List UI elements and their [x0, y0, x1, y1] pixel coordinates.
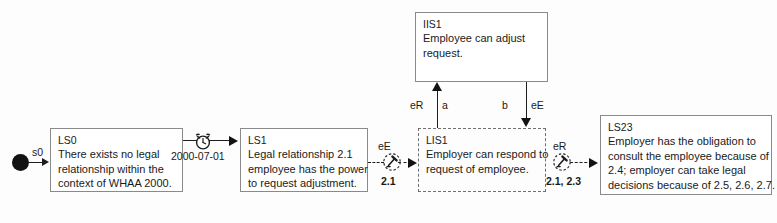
edge-label-clock-date: 2000-07-01: [171, 150, 225, 162]
state-text-line: 2.4; employer can take legal: [608, 163, 765, 178]
state-text-line: to request adjustment.: [248, 176, 361, 191]
gavel-icon: [552, 151, 572, 173]
start-state-node: [12, 154, 29, 171]
state-text-line: Employer has the obligation to: [608, 134, 765, 149]
edge-start-to-ls0-arrowhead: [42, 158, 49, 166]
edge-label-down-right: eE: [531, 99, 544, 111]
start-state-label: s0: [32, 146, 43, 158]
edge-label-up-right: a: [442, 99, 448, 111]
state-text-ls23: Employer has the obligation to consult t…: [608, 134, 765, 192]
edge-label-down-left: b: [502, 99, 508, 111]
edge-iis1-to-lis1-line: [526, 82, 527, 120]
state-text-ls1: Legal relationship 2.1 employee has the …: [248, 147, 361, 191]
state-text-ls0: There exists no legal relationship withi…: [58, 147, 176, 191]
state-box-ls23[interactable]: LS23 Employer has the obligation to cons…: [600, 115, 772, 195]
edge-start-to-ls0-line: [29, 162, 43, 163]
state-box-ls1[interactable]: LS1 Legal relationship 2.1 employee has …: [240, 128, 368, 192]
edge-ls0-to-ls1-arrowhead: [229, 136, 238, 146]
edge-label-lis1-ls23-top: eR: [553, 140, 566, 152]
state-text-iis1: Employee can adjust request.: [423, 31, 541, 60]
edge-label-ls1-lis1-bottom: 2.1: [381, 175, 396, 187]
state-text-line: request.: [423, 46, 541, 61]
state-text-lis1: Employer can respond to request of emplo…: [426, 147, 539, 176]
state-text-line: consult the employee because of: [608, 149, 765, 164]
state-text-line: relationship within the: [58, 162, 176, 177]
state-box-iis1[interactable]: IIS1 Employee can adjust request.: [415, 12, 548, 82]
state-text-line: There exists no legal: [58, 147, 176, 162]
edge-label-up-left: eR: [410, 99, 423, 111]
state-text-line: Employer can respond to: [426, 147, 539, 162]
state-id-ls0: LS0: [58, 134, 176, 147]
state-id-ls23: LS23: [608, 121, 765, 134]
edge-lis1-to-ls23-arrowhead: [589, 158, 598, 168]
edge-label-lis1-ls23-bottom: 2.1, 2.3: [546, 175, 581, 187]
diagram-canvas: s0 LS0 There exists no legal relationshi…: [0, 0, 777, 223]
state-box-lis1[interactable]: LIS1 Employer can respond to request of …: [418, 128, 546, 192]
state-text-line: decisions because of 2.5, 2.6, 2.7.: [608, 178, 765, 193]
state-id-ls1: LS1: [248, 134, 361, 147]
edge-label-ls1-lis1-top: eE: [378, 140, 391, 152]
state-text-line: context of WHAA 2000.: [58, 176, 176, 191]
edge-lis1-to-iis1-arrowhead: [432, 82, 442, 91]
state-id-lis1: LIS1: [426, 134, 539, 147]
state-box-ls0[interactable]: LS0 There exists no legal relationship w…: [50, 128, 183, 192]
gavel-icon: [382, 151, 402, 173]
edge-iis1-to-lis1-arrowhead: [521, 118, 531, 127]
alarm-clock-icon: [192, 130, 214, 152]
state-text-line: Legal relationship 2.1: [248, 147, 361, 162]
edge-ls1-to-lis1-arrowhead: [408, 158, 417, 168]
edge-lis1-to-iis1-line: [437, 91, 438, 128]
state-text-line: employee has the power: [248, 162, 361, 177]
state-text-line: Employee can adjust: [423, 31, 541, 46]
state-id-iis1: IIS1: [423, 18, 541, 31]
state-text-line: request of employee.: [426, 162, 539, 177]
